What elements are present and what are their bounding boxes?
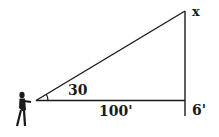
unknown-height-label: x [192,5,200,18]
line-of-sight [36,11,185,101]
eye-height-label: 6' [192,103,206,117]
person-icon [17,92,31,126]
base-distance-label: 100' [99,104,133,118]
angle-arc [46,94,48,100]
angle-label: 30 [68,83,87,97]
triangle-diagram: 30 100' x 6' [0,0,219,137]
